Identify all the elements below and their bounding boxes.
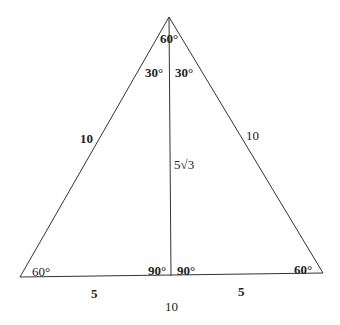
foot-right-angle: 90° [177,264,195,277]
triangle-figure [0,0,340,325]
outer-triangle [20,17,323,277]
right-side-length: 10 [246,129,259,142]
left-side-length: 10 [80,132,93,145]
base-right-half-length: 5 [238,285,245,298]
altitude-length: 5√3 [174,158,194,171]
bottom-left-angle: 60° [32,265,50,278]
foot-left-angle: 90° [148,264,166,277]
base-left-half-length: 5 [91,287,98,300]
apex-left-angle: 30° [145,66,163,79]
bottom-right-angle: 60° [294,263,312,276]
base-total-length: 10 [165,300,178,313]
altitude-line [169,17,171,276]
apex-angle: 60° [160,32,178,45]
apex-right-angle: 30° [175,66,193,79]
